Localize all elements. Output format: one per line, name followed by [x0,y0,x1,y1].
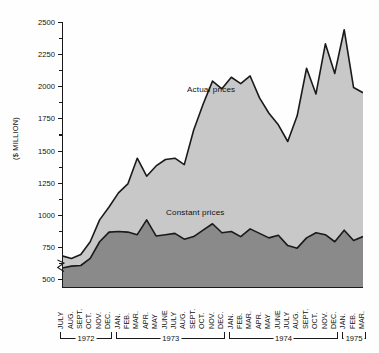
x-tick-label-1: AUG. [67,311,75,329]
y-tick-500 [58,279,63,280]
y-tick-2000 [58,86,63,87]
x-axis-line [62,287,363,288]
x-tick-label-21: APR. [255,312,263,329]
year-label: 1972 [76,333,97,344]
x-axis-month-labels: JULYAUG.SEPT.OCT.NOV.DEC.JAN.FEB.MAR.APR… [62,291,363,329]
bracket-right-tick [337,332,338,339]
y-axis-title: ($ MILLION) [11,94,20,184]
y-minor-tick [59,70,62,71]
x-tick-label-10: MAY [151,314,159,329]
y-tick-label-1750: 1750 [38,114,55,123]
bracket-right-tick [111,332,112,339]
year-bracket-1974: 1974 [229,332,337,346]
x-tick-label-15: OCT. [198,312,206,329]
y-minor-tick [59,102,62,103]
annotation-actual-prices: Actual prices [187,85,235,94]
y-minor-tick [59,134,62,135]
plot-area: 5007501000125015001750200022502500 Actua… [62,22,363,288]
x-tick-label-12: JULY [170,312,178,329]
x-tick-label-3: OCT. [85,312,93,329]
x-tick-label-5: DEC. [104,312,112,329]
year-bracket-1972: 1972 [60,332,112,346]
x-tick-label-28: NOV. [321,312,329,329]
axis-break-icon [57,258,69,274]
y-tick-label-1250: 1250 [38,178,55,187]
x-tick-label-32: MAR. [358,311,366,329]
y-minor-tick [59,231,62,232]
y-tick-label-2000: 2000 [38,82,55,91]
y-tick-1750 [58,118,63,119]
x-tick-label-11: JUNE [161,310,169,329]
y-minor-tick [59,167,62,168]
y-tick-label-750: 750 [42,242,55,251]
year-label: 1973 [160,333,181,344]
y-axis-line [62,22,63,288]
y-minor-tick [59,199,62,200]
y-tick-750 [58,247,63,248]
bracket-right-tick [365,332,366,339]
annotation-constant-prices: Constant prices [166,208,224,217]
x-tick-label-6: JAN. [114,313,122,329]
y-tick-1000 [58,215,63,216]
x-tick-label-4: NOV. [95,312,103,329]
y-tick-label-1500: 1500 [38,146,55,155]
year-label: 1975 [344,333,365,344]
x-tick-label-31: FEB. [349,313,357,329]
x-tick-label-14: SEPT. [189,309,197,329]
x-tick-label-8: MAR. [132,311,140,329]
y-minor-tick [59,38,62,39]
year-bracket-1973: 1973 [116,332,224,346]
year-bracket-1975: 1975 [342,332,366,346]
y-tick-label-2500: 2500 [38,18,55,27]
x-tick-label-13: AUG. [179,311,187,329]
x-tick-label-7: FEB. [123,313,131,329]
y-tick-label-500: 500 [42,275,55,284]
x-tick-label-17: DEC. [217,312,225,329]
x-tick-label-16: NOV. [208,312,216,329]
x-tick-label-0: JULY [57,312,65,329]
bracket-right-tick [224,332,225,339]
x-tick-label-24: JULY [283,312,291,329]
x-tick-label-26: SEPT. [302,309,310,329]
y-tick-1250 [58,183,63,184]
y-tick-1500 [58,151,63,152]
chart-figure: ($ MILLION) 5007501000125015001750200022… [0,0,379,353]
x-tick-label-18: JAN. [227,313,235,329]
x-tick-label-19: FEB. [236,313,244,329]
y-tick-2250 [58,54,63,55]
x-tick-label-29: DEC. [330,312,338,329]
x-tick-label-22: MAY [264,314,272,329]
x-tick-label-2: SEPT. [76,309,84,329]
y-tick-2500 [58,22,63,23]
x-tick-label-27: OCT. [311,312,319,329]
area-series-group [62,22,363,288]
x-axis-year-brackets: 1972197319741975 [62,332,363,352]
x-tick-label-9: APR. [142,312,150,329]
x-tick-label-20: MAR. [245,311,253,329]
y-tick-label-2250: 2250 [38,50,55,59]
x-tick-label-23: JUNE [274,310,282,329]
y-tick-label-1000: 1000 [38,210,55,219]
year-label: 1974 [273,333,294,344]
x-tick-label-25: AUG. [292,311,300,329]
x-tick-label-30: JAN. [339,313,347,329]
